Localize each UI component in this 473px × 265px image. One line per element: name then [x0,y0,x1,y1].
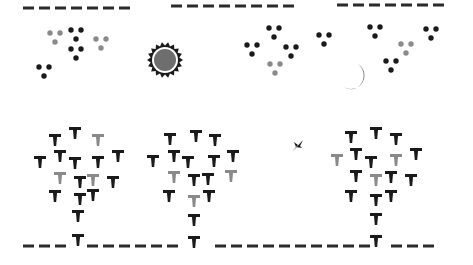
tree-left [34,127,124,246]
t-bar [370,194,382,197]
sun-core [154,49,176,71]
dot-cluster [244,42,259,56]
tree-middle [147,130,239,248]
t-bar [385,171,397,174]
tree-mark-t [72,234,84,246]
tree-mark-t [365,156,377,168]
t-stem [172,153,176,162]
t-stem [116,153,120,162]
ground-dash [103,245,114,248]
t-stem [58,175,62,184]
tree-mark-t [168,171,180,183]
tree-mark-t [370,235,382,247]
sky-dash [39,7,50,10]
t-bar [168,150,180,153]
t-stem [335,157,339,166]
tree-mark-t [350,170,362,182]
dot [388,67,393,72]
dot-cluster [36,64,51,78]
t-stem [354,173,358,182]
t-stem [192,198,196,207]
tree-mark-t [390,154,402,166]
dot [433,26,438,31]
t-bar [147,155,159,158]
tree-mark-t [164,133,176,145]
sky-dash [433,4,444,7]
dot [47,30,52,35]
ground-dash [407,245,418,248]
t-stem [194,133,198,142]
dot [293,44,298,49]
t-bar [203,190,215,193]
dot [372,33,377,38]
dot [254,42,259,47]
ground-dash [247,245,258,248]
sky-dashed-lines [23,4,444,10]
t-bar [209,134,221,137]
dot [46,64,51,69]
dot [73,55,78,60]
sky-dash [71,7,82,10]
ground-dash [167,245,178,248]
ground-dashed-line [23,245,434,248]
dot [393,58,398,63]
ground-dash [279,245,290,248]
illustration-scene [0,0,473,265]
t-bar [87,174,99,177]
tree-mark-t [390,133,402,145]
dot [103,36,108,41]
t-bar [370,235,382,238]
dot [36,64,41,69]
dot-cluster [267,61,282,75]
dot [57,30,62,35]
t-bar [365,156,377,159]
dot [316,32,321,37]
dot [41,73,46,78]
t-stem [172,174,176,183]
tree-mark-t [74,176,86,188]
t-stem [78,179,82,188]
t-stem [374,238,378,247]
sky-dash [55,7,66,10]
t-stem [58,153,62,162]
t-stem [151,158,155,167]
ground-dash [343,245,354,248]
t-bar [112,150,124,153]
dot [408,41,413,46]
dot-cluster [283,44,298,58]
sky-dash [235,5,246,8]
tree-mark-t [188,214,200,226]
bird-shape [292,140,303,152]
ground-dash [231,245,242,248]
t-bar [350,148,362,151]
sky-dash [385,4,396,7]
t-bar [385,190,397,193]
tree-right [331,127,422,247]
t-stem [389,193,393,202]
ground-dash [87,245,98,248]
t-bar [54,150,66,153]
dot [403,50,408,55]
t-stem [76,213,80,222]
tree-mark-t [112,150,124,162]
t-stem [389,174,393,183]
t-bar [390,154,402,157]
tree-mark-t [49,190,61,202]
tree-mark-t [208,155,220,167]
t-bar [49,134,61,137]
t-stem [374,130,378,139]
t-stem [76,237,80,246]
t-stem [349,193,353,202]
tree-mark-t [227,150,239,162]
ground-dash [423,245,434,248]
tree-mark-t [69,157,81,169]
tree-mark-t [188,174,200,186]
t-bar [168,171,180,174]
t-stem [231,153,235,162]
t-bar [370,127,382,130]
t-bar [188,195,200,198]
dot [244,42,249,47]
t-stem [206,176,210,185]
ground-dash [23,245,34,248]
sky-dash [171,5,182,8]
